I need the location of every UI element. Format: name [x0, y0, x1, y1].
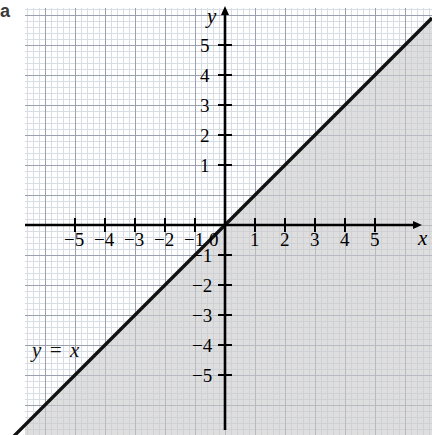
y-tick-label-3: 3 [200, 96, 210, 115]
y-tick-label--5: −5 [192, 366, 212, 385]
part-label: a [0, 2, 10, 20]
x-tick-label-1: 1 [250, 230, 260, 249]
y-tick-label-1: 1 [200, 156, 210, 175]
y-tick-label--4: −4 [192, 336, 212, 355]
x-tick-label-2: 2 [280, 230, 290, 249]
x-tick-label-3: 3 [310, 230, 320, 249]
x-tick-label--5: −5 [64, 230, 84, 249]
y-tick-label--1: −1 [192, 246, 212, 265]
y-tick-label-4: 4 [200, 66, 210, 85]
line-equation-label: y = x [32, 340, 80, 361]
graph-figure: a [0, 0, 432, 435]
x-tick-label-4: 4 [340, 230, 350, 249]
x-tick-label--3: −3 [124, 230, 144, 249]
y-tick-label-5: 5 [200, 36, 210, 55]
x-tick-label--4: −4 [94, 230, 114, 249]
y-tick-label-2: 2 [200, 126, 210, 145]
y-axis-letter: y [207, 6, 216, 27]
y-tick-label--3: −3 [192, 306, 212, 325]
graph-paper [25, 8, 432, 435]
y-tick-label--2: −2 [192, 276, 212, 295]
x-axis-letter: x [418, 228, 427, 249]
shaded-region [25, 8, 432, 435]
x-tick-label--2: −2 [154, 230, 174, 249]
x-tick-label-5: 5 [370, 230, 380, 249]
